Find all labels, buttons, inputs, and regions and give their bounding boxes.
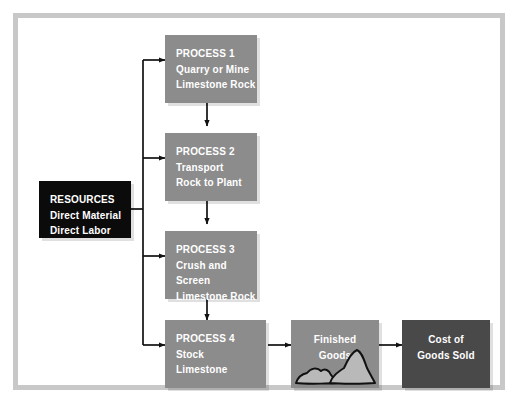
resources-text: RESOURCES Direct Material Direct Labor O… [50,192,121,254]
process-3-box: PROCESS 3 Crush and Screen Limestone Roc… [165,231,257,299]
rock-pile-icon [294,346,378,386]
process-3-text: PROCESS 3 Crush and Screen Limestone Roc… [176,242,257,304]
process-4-box: PROCESS 4 Stock Limestone [165,320,266,388]
resources-box: RESOURCES Direct Material Direct Labor O… [39,181,131,238]
cost-of-goods-sold-box: Cost of Goods Sold [402,320,490,388]
process-1-text: PROCESS 1 Quarry or Mine Limestone Rock [176,46,255,93]
diagram-canvas: RESOURCES Direct Material Direct Labor O… [0,0,524,415]
finished-goods-box: Finished Goods [291,320,379,388]
process-4-text: PROCESS 4 Stock Limestone [176,331,235,378]
process-1-box: PROCESS 1 Quarry or Mine Limestone Rock [165,35,257,103]
process-2-box: PROCESS 2 Transport Rock to Plant [165,133,257,201]
process-2-text: PROCESS 2 Transport Rock to Plant [176,144,242,191]
cost-of-goods-sold-text: Cost of Goods Sold [402,332,490,363]
